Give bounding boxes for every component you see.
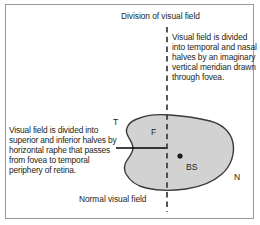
normal-visual-field-caption: Normal visual field: [79, 195, 146, 205]
vertical-meridian-description: Visual field is divided into temporal an…: [172, 33, 258, 83]
label-temporal: T: [113, 117, 118, 127]
division-of-visual-field-title: Division of visual field: [121, 12, 200, 22]
figure-canvas: Division of visual field Visual field is…: [0, 0, 260, 225]
label-nasal: N: [234, 172, 240, 182]
visual-field-shape: [125, 115, 234, 191]
label-blind-spot: BS: [186, 162, 197, 172]
label-fovea: F: [151, 127, 156, 137]
blind-spot-dot: [177, 153, 182, 158]
horizontal-raphe-description: Visual field is divided into superior an…: [9, 126, 121, 176]
